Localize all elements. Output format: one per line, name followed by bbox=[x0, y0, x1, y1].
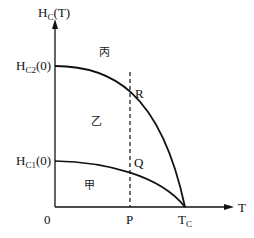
region-lower-label: 甲 bbox=[84, 180, 95, 191]
region-upper-label: 丙 bbox=[99, 47, 110, 58]
region-middle-label: 乙 bbox=[91, 116, 102, 127]
y-axis-label: HC(T) bbox=[38, 6, 70, 22]
hc2-label: HC2(0) bbox=[16, 59, 51, 75]
p-label: P bbox=[126, 213, 133, 226]
hc1-curve bbox=[55, 161, 185, 207]
origin-label: 0 bbox=[44, 213, 51, 226]
q-label: Q bbox=[134, 156, 143, 169]
x-axis-arrow-icon bbox=[224, 204, 234, 210]
hc2-curve bbox=[55, 66, 185, 207]
hc1-label: HC1(0) bbox=[16, 154, 51, 170]
tc-label: TC bbox=[178, 213, 192, 229]
diagram-canvas bbox=[0, 0, 254, 238]
r-label: R bbox=[135, 87, 144, 100]
x-axis-label: T bbox=[238, 201, 246, 214]
phase-diagram: HC(T) T 0 HC2(0) HC1(0) TC P R Q 丙 乙 甲 bbox=[0, 0, 254, 238]
